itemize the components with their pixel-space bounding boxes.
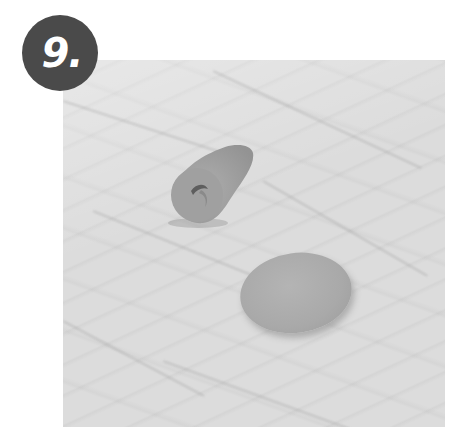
clay-cone (163, 145, 258, 230)
clay-disc (235, 246, 357, 341)
marble-vein (63, 320, 205, 397)
instruction-photo (63, 60, 445, 427)
marble-vein (163, 360, 352, 427)
step-number-badge: 9. (22, 15, 98, 91)
step-number-label: 9. (41, 30, 82, 76)
